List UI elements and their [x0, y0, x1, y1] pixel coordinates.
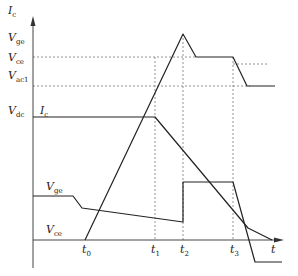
label-vge-peak: Vge — [8, 31, 25, 46]
waveforms — [33, 34, 282, 262]
t1-label: t1 — [151, 243, 160, 258]
left-labels: Ic Vge Vce Vac1 Vdc — [7, 4, 29, 119]
label-vce: Vce — [8, 51, 24, 66]
time-marks: t0 t1 t2 t3 t — [82, 243, 276, 258]
waveform-diagram: Ic Vge Vce Vac1 Vdc Ic Vge Vce t0 t1 t2 … — [0, 0, 298, 276]
label-vac1: Vac1 — [8, 69, 29, 84]
x-axis-label: t — [271, 243, 276, 256]
x-axis-arrow-icon — [274, 238, 284, 243]
t0-label: t0 — [82, 243, 91, 258]
curve-labels: Ic Vge Vce — [39, 104, 63, 238]
ic-curve-label: Ic — [39, 104, 48, 119]
vce-curve-label: Vce — [46, 223, 62, 238]
axes — [33, 22, 276, 268]
ic-waveform — [33, 117, 272, 240]
t2-label: t2 — [180, 243, 189, 258]
y-axis-label: Ic — [7, 4, 16, 19]
vce-waveform — [85, 34, 275, 240]
t3-label: t3 — [230, 243, 239, 258]
vge-curve-label: Vge — [46, 180, 63, 195]
label-vdc: Vdc — [8, 104, 24, 119]
y-axis-arrow-icon — [31, 16, 36, 26]
